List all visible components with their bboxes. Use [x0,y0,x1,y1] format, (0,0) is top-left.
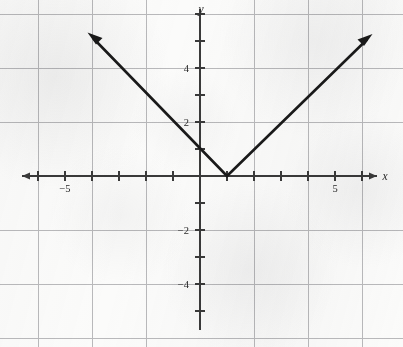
y-tick-label-neg4: −4 [178,279,190,290]
axis-lines [22,9,377,330]
x-axis-arrow-left-icon [22,173,30,180]
function-curve-absolute-value [88,33,373,177]
y-tick-label-neg2: −2 [178,225,189,236]
y-axis-label: y [197,3,204,16]
grid-lines [0,0,403,347]
x-axis-label: x [381,170,388,182]
curve-left-arrowhead-icon [88,33,103,45]
x-tick-label-5: 5 [332,183,337,194]
x-axis-arrow-right-icon [369,173,377,180]
coordinate-plane: −5 5 4 2 −2 −4 x y [0,0,403,347]
y-tick-label-4: 4 [184,63,190,74]
x-tick-label-neg5: −5 [59,183,70,194]
curve-right-branch [227,40,367,176]
y-tick-label-2: 2 [184,117,189,128]
curve-left-branch [94,39,228,177]
curve-right-arrowhead-icon [358,34,373,46]
graph-figure: −5 5 4 2 −2 −4 x y [0,0,403,347]
